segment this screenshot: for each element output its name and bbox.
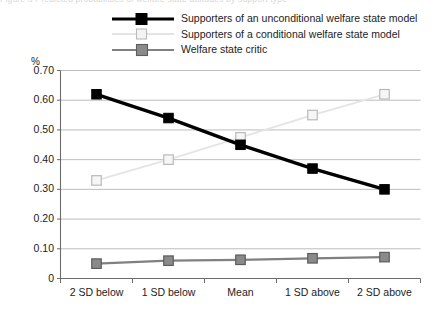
data-point-marker xyxy=(164,256,174,265)
x-axis-tick-label: 2 SD above xyxy=(349,286,421,298)
y-axis-tick-label: 0 xyxy=(8,272,54,284)
plot-area xyxy=(0,0,432,312)
data-point-marker xyxy=(380,90,390,100)
y-axis-tick-label: 0.50 xyxy=(8,123,54,135)
data-point-marker xyxy=(164,155,174,165)
y-axis-tick-label: 0.60 xyxy=(8,93,54,105)
y-axis-tick-label: 0.30 xyxy=(8,182,54,194)
data-point-marker xyxy=(380,252,390,261)
data-point-marker xyxy=(236,140,246,150)
data-point-marker xyxy=(380,185,390,195)
data-point-marker xyxy=(92,259,102,269)
data-point-marker xyxy=(308,254,318,263)
y-axis-tick-label: 0.70 xyxy=(8,64,54,76)
y-axis-tick-label: 0.40 xyxy=(8,153,54,165)
gridlines xyxy=(61,71,421,249)
x-axis-tick-label: 1 SD below xyxy=(133,286,205,298)
x-axis-tick-label: Mean xyxy=(205,286,277,298)
data-point-marker xyxy=(236,255,246,265)
series-line xyxy=(92,252,390,268)
x-axis-tick-label: 2 SD below xyxy=(61,286,133,298)
data-point-marker xyxy=(308,110,318,120)
y-axis-tick-label: 0.10 xyxy=(8,242,54,254)
x-axis-tick-marks xyxy=(61,279,421,284)
series-line xyxy=(92,90,390,186)
x-axis-tick-label: 1 SD above xyxy=(277,286,349,298)
data-point-marker xyxy=(92,176,102,186)
data-point-marker xyxy=(92,90,102,100)
data-point-marker xyxy=(164,113,174,123)
data-series-layer xyxy=(92,90,390,269)
y-axis-tick-label: 0.20 xyxy=(8,212,54,224)
figure-container: Figure 3 Predicted probabilities of welf… xyxy=(0,0,432,312)
data-point-marker xyxy=(308,164,318,174)
